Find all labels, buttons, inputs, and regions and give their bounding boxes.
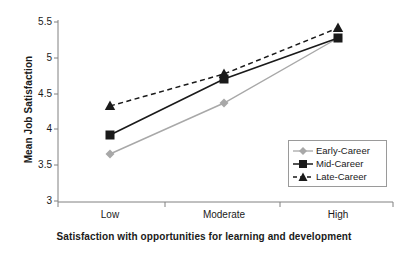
- y-axis-ticks: [54, 22, 58, 201]
- legend-item-late-career: Late-Career: [292, 170, 382, 183]
- legend-label-late-career: Late-Career: [314, 171, 367, 183]
- x-axis-title: Satisfaction with opportunities for lear…: [0, 231, 408, 242]
- line-chart: Mean Job Satisfaction 5.5 5 4.5 4 3.5 3: [0, 0, 408, 253]
- x-axis-ticks: [58, 202, 393, 207]
- series-line-mid-career: [110, 38, 338, 135]
- x-tick-label-high: High: [298, 210, 378, 220]
- series-late-career: [105, 23, 343, 111]
- legend-marker-triangle-icon: [292, 171, 314, 183]
- legend-marker-diamond-icon: [292, 145, 314, 157]
- x-tick-label-low: Low: [70, 210, 150, 220]
- chart-legend: Early-Career Mid-Career Late-Career: [288, 140, 387, 187]
- x-tick-label-moderate: Moderate: [184, 210, 264, 220]
- series-line-late-career: [110, 28, 338, 106]
- legend-label-mid-career: Mid-Career: [314, 158, 364, 170]
- series-markers-late-career: [105, 23, 343, 111]
- legend-item-early-career: Early-Career: [292, 144, 382, 157]
- legend-marker-square-icon: [292, 158, 314, 170]
- series-mid-career: [106, 34, 343, 140]
- legend-item-mid-career: Mid-Career: [292, 157, 382, 170]
- legend-label-early-career: Early-Career: [314, 145, 370, 157]
